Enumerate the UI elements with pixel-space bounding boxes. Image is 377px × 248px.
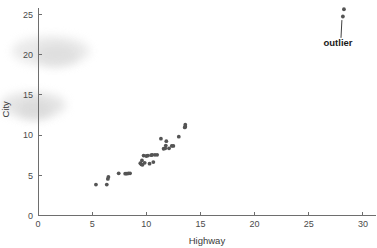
x-tick-label: 30: [358, 219, 368, 229]
data-point: [164, 139, 168, 143]
y-axis-ticks: 0510152025: [23, 10, 42, 221]
x-tick-label: 25: [304, 219, 314, 229]
y-tick-label: 15: [23, 90, 33, 100]
annotation-label-outlier: outlier: [323, 37, 352, 48]
data-point: [117, 171, 121, 175]
y-tick-label: 20: [23, 50, 33, 60]
data-point: [159, 137, 163, 141]
y-tick-label: 25: [23, 10, 33, 20]
data-point: [146, 154, 150, 158]
x-tick-label: 0: [35, 219, 40, 229]
scatter-chart: 051015202530 0510152025 outlier Highway …: [0, 0, 377, 248]
x-tick-label: 5: [90, 219, 95, 229]
plot-area: 051015202530 0510152025 outlier Highway …: [0, 0, 377, 248]
data-point: [341, 15, 345, 19]
data-point: [171, 144, 175, 148]
data-point: [177, 135, 181, 139]
data-points: [94, 7, 346, 186]
data-point: [342, 7, 346, 11]
data-point: [148, 162, 152, 166]
data-point: [105, 183, 109, 187]
data-point: [128, 171, 132, 175]
data-point: [164, 144, 168, 148]
x-axis-title: Highway: [189, 235, 226, 246]
data-point: [94, 183, 98, 187]
y-tick-label: 5: [28, 171, 33, 181]
annotation-leader-line: [341, 20, 342, 38]
x-tick-label: 20: [250, 219, 260, 229]
y-tick-label: 0: [28, 211, 33, 221]
data-point: [183, 125, 187, 129]
x-tick-label: 15: [195, 219, 205, 229]
x-axis-ticks: 051015202530: [35, 212, 367, 229]
data-point: [106, 175, 110, 179]
data-point: [151, 160, 155, 164]
data-point: [155, 153, 159, 157]
outlier-annotation: outlier: [323, 20, 352, 48]
y-tick-label: 10: [23, 130, 33, 140]
x-tick-label: 10: [141, 219, 151, 229]
y-axis-title: City: [0, 101, 11, 118]
data-point: [143, 161, 147, 165]
